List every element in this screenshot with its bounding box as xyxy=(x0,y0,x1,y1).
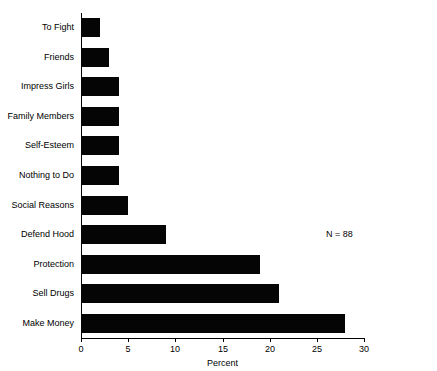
bar-row xyxy=(81,284,364,303)
category-label: Family Members xyxy=(0,107,74,126)
bar xyxy=(81,196,128,215)
x-axis-tick-label: 5 xyxy=(108,344,148,355)
bar xyxy=(81,77,119,96)
x-axis-tick xyxy=(223,338,224,342)
bar-row xyxy=(81,18,364,37)
bar-row xyxy=(81,107,364,126)
x-axis-tick xyxy=(317,338,318,342)
bar-row xyxy=(81,136,364,155)
category-label: Impress Girls xyxy=(0,77,74,96)
category-label: Sell Drugs xyxy=(0,284,74,303)
bar-row xyxy=(81,314,364,333)
bar xyxy=(81,18,100,37)
category-label: Self-Esteem xyxy=(0,136,74,155)
x-axis-tick xyxy=(175,338,176,342)
bar-row xyxy=(81,166,364,185)
x-axis-tick-label: 0 xyxy=(61,344,101,355)
x-axis-tick xyxy=(270,338,271,342)
bar-row xyxy=(81,255,364,274)
x-axis-title: Percent xyxy=(81,358,364,369)
bar xyxy=(81,166,119,185)
bar xyxy=(81,225,166,244)
bar xyxy=(81,284,279,303)
bar xyxy=(81,107,119,126)
bar-chart: To FightFriendsImpress GirlsFamily Membe… xyxy=(0,0,437,371)
category-label: Social Reasons xyxy=(0,196,74,215)
category-label: Defend Hood xyxy=(0,225,74,244)
category-label: Protection xyxy=(0,255,74,274)
x-axis-tick-label: 25 xyxy=(297,344,337,355)
category-label: Make Money xyxy=(0,314,74,333)
category-label: Nothing to Do xyxy=(0,166,74,185)
bar xyxy=(81,48,109,67)
bar xyxy=(81,136,119,155)
x-axis-tick-label: 30 xyxy=(344,344,384,355)
bar xyxy=(81,255,260,274)
x-axis-tick xyxy=(364,338,365,342)
bar-row xyxy=(81,77,364,96)
x-axis-tick-label: 20 xyxy=(250,344,290,355)
x-axis-tick xyxy=(128,338,129,342)
bar-row xyxy=(81,225,364,244)
bar-row xyxy=(81,196,364,215)
bar xyxy=(81,314,345,333)
x-axis-tick xyxy=(81,338,82,342)
x-axis-tick-label: 15 xyxy=(203,344,243,355)
category-label: Friends xyxy=(0,48,74,67)
category-label: To Fight xyxy=(0,18,74,37)
sample-size-annotation: N = 88 xyxy=(326,228,353,240)
bar-row xyxy=(81,48,364,67)
x-axis-tick-label: 10 xyxy=(155,344,195,355)
